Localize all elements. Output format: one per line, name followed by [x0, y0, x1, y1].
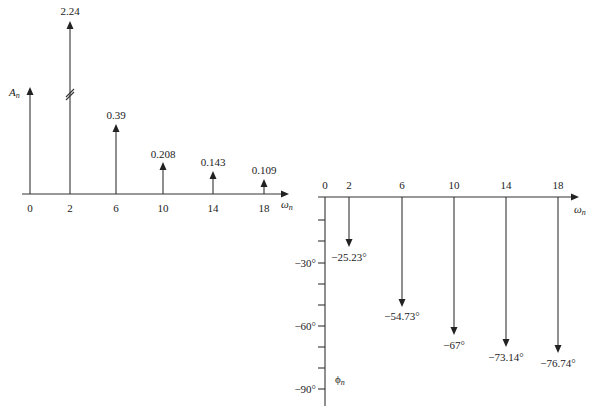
- phase-value-10: −67°: [443, 339, 465, 351]
- stem-arrow-icon: [261, 179, 268, 187]
- amplitude-tick-10: 10: [158, 202, 170, 214]
- stem-arrow-icon: [113, 124, 120, 132]
- phase-value-2: −25.23°: [331, 251, 366, 263]
- phase-tick-18: 18: [553, 179, 565, 191]
- stem-arrow-icon: [503, 339, 510, 347]
- amplitude-tick-18: 18: [259, 202, 271, 214]
- phase-ytick-minus90: −90°: [294, 383, 316, 395]
- x-axis-arrow-icon: [281, 191, 289, 198]
- stem-arrow-icon: [67, 21, 74, 29]
- stem-arrow-icon: [451, 327, 458, 335]
- y-axis-arrow-icon: [27, 87, 34, 95]
- phase-value-14: −73.14°: [488, 351, 523, 363]
- phase-tick-2: 2: [346, 179, 352, 191]
- value-label-10: 0.208: [151, 148, 176, 160]
- amplitude-chart: ωn 0 2 6 10 14 18 An 2.24 0.39 0.208 0.1…: [8, 5, 293, 214]
- stem-arrow-icon: [555, 345, 562, 353]
- stem-arrow-icon: [160, 162, 167, 170]
- phase-x-label: ωn: [574, 203, 586, 217]
- phase-y-label: ϕn: [335, 373, 345, 387]
- amplitude-tick-2: 2: [67, 202, 73, 214]
- spectrum-figure: ωn 0 2 6 10 14 18 An 2.24 0.39 0.208 0.1…: [0, 0, 593, 414]
- stem-arrow-icon: [210, 171, 217, 179]
- phase-tick-0: 0: [322, 179, 328, 191]
- amplitude-tick-6: 6: [113, 202, 119, 214]
- phase-tick-6: 6: [399, 179, 405, 191]
- phase-value-18: −76.74°: [540, 357, 575, 369]
- phase-value-6: −54.73°: [384, 310, 419, 322]
- phase-ytick-minus60: −60°: [294, 320, 316, 332]
- phase-tick-10: 10: [449, 179, 461, 191]
- amplitude-tick-0: 0: [27, 202, 33, 214]
- amplitude-y-label: An: [8, 86, 20, 100]
- value-label-18: 0.109: [252, 164, 277, 176]
- phase-tick-14: 14: [501, 179, 513, 191]
- amplitude-x-label: ωn: [281, 198, 293, 212]
- value-label-2: 2.24: [60, 5, 80, 17]
- value-label-6: 0.39: [106, 109, 126, 121]
- phase-ytick-minus30: −30°: [294, 257, 316, 269]
- x-axis-arrow-icon: [571, 194, 579, 201]
- phase-chart: ωn 0 2 6 10 14 18 −30° −60° −90° ϕn −25.…: [294, 179, 585, 406]
- stem-arrow-icon: [346, 239, 353, 247]
- stem-arrow-icon: [399, 299, 406, 307]
- amplitude-tick-14: 14: [208, 202, 220, 214]
- value-label-14: 0.143: [201, 156, 226, 168]
